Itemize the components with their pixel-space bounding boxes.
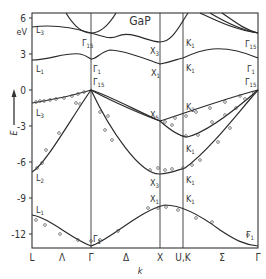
ytick-m3: -3: [17, 121, 26, 132]
y-axis-label: E: [9, 130, 19, 136]
label-G1-cond: Γ1: [93, 64, 101, 75]
label-L2: L2: [36, 173, 44, 184]
label-X5: X5: [150, 110, 159, 121]
label-K1-low: K1: [186, 194, 195, 205]
label-K1-cond: K1: [186, 63, 195, 74]
label-L1-cond: L1: [36, 64, 44, 75]
label-K1-top: K1: [186, 38, 195, 49]
label-L3-val: L3: [36, 108, 44, 119]
label-X1-cond: X1: [151, 68, 160, 79]
experimental-points: [35, 91, 256, 243]
ytick-m12: -12: [11, 229, 26, 240]
label-X3-val: X3: [150, 178, 159, 189]
label-G1-cond-right: Γ1: [247, 64, 255, 75]
ytick-3: 3: [20, 49, 26, 60]
label-X1-val: X1: [150, 194, 159, 205]
xtick-sigma: Σ: [219, 252, 225, 263]
xtick-X: X: [157, 252, 163, 263]
ytick-m9: -9: [17, 193, 26, 204]
label-K1-val2: K1: [186, 175, 195, 186]
xtick-gamma: Γ: [88, 252, 93, 263]
unit-label: eV: [16, 27, 27, 37]
x-axis-label: k: [138, 266, 143, 276]
label-G1-val-right: Γ1: [246, 230, 254, 241]
xtick-lambda: Λ: [59, 252, 66, 263]
ytick-m6: -6: [17, 157, 26, 168]
label-G15-cond-right: Γ15: [245, 39, 256, 50]
energy-arrow-icon: [12, 89, 17, 125]
bands: [32, 13, 258, 246]
label-L1-val: L1: [36, 205, 44, 216]
ytick-6: 6: [20, 13, 26, 24]
label-K1-val: K1: [186, 144, 195, 155]
xtick-gamma-end: Γ: [255, 252, 260, 263]
label-K2: K2: [186, 102, 195, 113]
band-structure-chart: 6 eV 3 0 -3 -6 -9 -12 E GaP L Λ Γ Δ X U,…: [0, 0, 266, 279]
label-G15-cond: Γ15: [82, 38, 93, 49]
label-X3-cond: X3: [150, 46, 159, 57]
chart-title: GaP: [129, 14, 151, 28]
xtick-delta: Δ: [123, 252, 130, 263]
label-G15-val-right: Γ15: [245, 77, 256, 88]
label-G1-val: Γ1: [93, 234, 101, 245]
ytick-0: 0: [20, 85, 26, 96]
xtick-UK: U,K: [175, 252, 191, 263]
label-G15-val: Γ15: [93, 77, 104, 88]
xtick-L: L: [29, 252, 34, 263]
